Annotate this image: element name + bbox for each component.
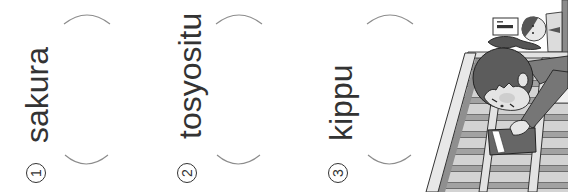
item-number-badge: 2 xyxy=(177,163,197,183)
girl-mouth xyxy=(500,105,503,107)
station-staff-eye xyxy=(532,25,534,27)
romaji-word: kippu xyxy=(325,65,357,142)
answer-bracket xyxy=(60,10,116,170)
station-staff-eye xyxy=(532,32,534,34)
item-number: 3 xyxy=(329,164,347,182)
bracket-top-arc xyxy=(216,15,262,24)
bracket-top-arc xyxy=(367,15,413,24)
item-number-badge: 1 xyxy=(26,163,46,183)
romaji-worksheet: sakura 1 tosyositu 2 kippu 3 xyxy=(0,0,568,192)
item-number: 1 xyxy=(27,164,45,182)
bracket-top-arc xyxy=(64,15,110,24)
item-number: 2 xyxy=(178,164,196,182)
pole xyxy=(562,0,568,56)
station-sign-text xyxy=(497,21,503,23)
station-sign-bar xyxy=(497,25,513,28)
girl-blush xyxy=(499,93,515,103)
bracket-bottom-arc xyxy=(65,155,108,164)
bracket-bottom-arc xyxy=(368,155,411,164)
exercise-item: sakura 1 xyxy=(0,0,150,192)
item-number-badge: 3 xyxy=(328,163,348,183)
girl-picking-up-ticket-illustration xyxy=(420,0,568,192)
bracket-bottom-arc xyxy=(217,155,260,164)
answer-bracket xyxy=(363,10,419,170)
exercise-item: tosyositu 2 xyxy=(152,0,302,192)
answer-bracket xyxy=(212,10,268,170)
romaji-word: sakura xyxy=(21,47,53,143)
girl-ear xyxy=(518,73,528,87)
romaji-word: tosyositu xyxy=(174,13,206,139)
